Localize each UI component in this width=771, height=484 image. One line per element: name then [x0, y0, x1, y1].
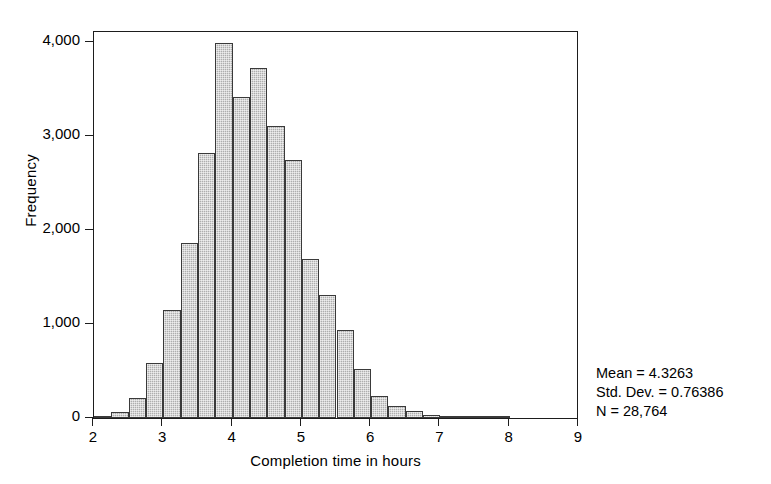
x-axis-title: Completion time in hours — [93, 452, 578, 469]
x-tick-mark — [92, 418, 93, 426]
x-tick-label: 3 — [142, 428, 182, 445]
stat-n: N = 28,764 — [596, 402, 724, 421]
x-tick-label: 9 — [558, 428, 598, 445]
x-tick-label: 4 — [212, 428, 252, 445]
x-tick-mark — [369, 418, 370, 426]
y-tick-mark — [85, 41, 93, 42]
histogram-bar — [388, 406, 405, 418]
y-tick-label: 1,000 — [42, 313, 80, 330]
x-tick-mark — [508, 418, 509, 426]
histogram-figure: Frequency 01,0002,0003,0004,000 23456789… — [0, 0, 771, 484]
y-tick-label: 2,000 — [42, 219, 80, 236]
histogram-bar — [233, 97, 250, 418]
histogram-bar — [163, 310, 180, 418]
histogram-bar — [181, 243, 198, 418]
y-tick-mark — [85, 229, 93, 230]
x-tick-mark — [161, 418, 162, 426]
histogram-bar — [129, 398, 146, 418]
stat-mean: Mean = 4.3263 — [596, 364, 724, 383]
x-tick-label: 7 — [419, 428, 459, 445]
statistics-annotation: Mean = 4.3263 Std. Dev. = 0.76386 N = 28… — [596, 364, 724, 421]
histogram-bar — [492, 416, 509, 418]
histogram-bar — [267, 126, 284, 418]
histogram-bar — [354, 369, 371, 418]
y-tick-label: 4,000 — [42, 31, 80, 48]
histogram-bar — [250, 68, 267, 418]
histogram-bar — [406, 411, 423, 418]
x-tick-mark — [300, 418, 301, 426]
x-tick-label: 6 — [350, 428, 390, 445]
histogram-bar — [215, 43, 232, 418]
x-tick-mark — [438, 418, 439, 426]
x-tick-label: 2 — [73, 428, 113, 445]
histogram-bar — [319, 295, 336, 418]
x-tick-label: 8 — [489, 428, 529, 445]
histogram-bar — [94, 416, 111, 418]
histogram-bar — [285, 160, 302, 419]
histogram-bar — [371, 396, 388, 418]
histogram-bar — [458, 416, 475, 418]
y-tick-mark — [85, 323, 93, 324]
y-tick-mark — [85, 135, 93, 136]
histogram-bar — [423, 415, 440, 418]
histogram-bar — [337, 330, 354, 418]
x-tick-mark — [231, 418, 232, 426]
y-axis-title: Frequency — [22, 91, 39, 291]
histogram-bar — [440, 416, 457, 418]
histogram-bar — [111, 412, 128, 418]
histogram-bar — [475, 416, 492, 418]
plot-area — [93, 31, 578, 419]
stat-stddev: Std. Dev. = 0.76386 — [596, 383, 724, 402]
histogram-bar — [302, 259, 319, 418]
histogram-bar — [198, 153, 215, 418]
histogram-bar — [146, 363, 163, 418]
y-tick-label: 0 — [72, 407, 80, 424]
x-tick-mark — [577, 418, 578, 426]
y-tick-label: 3,000 — [42, 125, 80, 142]
x-tick-label: 5 — [281, 428, 321, 445]
